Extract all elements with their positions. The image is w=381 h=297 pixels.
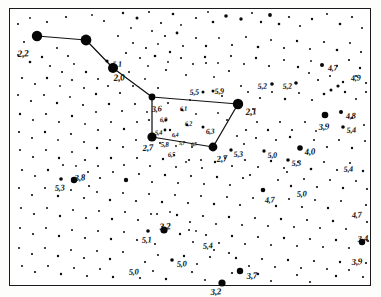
star-dot (95, 93, 97, 95)
star-dot (136, 239, 138, 241)
star-dot (169, 51, 171, 53)
star-dot (338, 139, 340, 141)
magnitude-label: 6,5 (168, 152, 176, 159)
star-dot (60, 273, 62, 275)
magnitude-label: 5,1 (141, 235, 151, 244)
magnitude-label: 5,0 (128, 267, 138, 276)
magnitude-label: 5,8 (161, 141, 169, 149)
star-dot (45, 227, 47, 229)
labeled-star-dot (81, 35, 92, 46)
star-dot (248, 265, 250, 267)
star-dot (289, 136, 291, 138)
star-dot (57, 255, 59, 257)
star-dot (31, 194, 33, 196)
labeled-star-dot (32, 31, 42, 41)
star-dot (342, 187, 344, 189)
star-dot (365, 204, 367, 206)
star-dot (195, 230, 197, 232)
star-dot (275, 139, 277, 141)
star-dot (317, 79, 319, 81)
magnitude-label: 2,2 (17, 49, 29, 59)
star-dot (23, 41, 25, 43)
star-dot (151, 30, 153, 32)
star-dot (107, 85, 109, 87)
star-dot (18, 187, 20, 189)
magnitude-label: 6,5 (191, 142, 197, 148)
star-dot (58, 235, 60, 237)
star-dot (196, 263, 198, 265)
magnitude-label: 5,7 (179, 141, 185, 147)
star-dot (97, 230, 99, 232)
star-dot (275, 205, 277, 207)
star-dot (111, 218, 113, 220)
labeled-star-dot (146, 229, 150, 233)
star-dot (83, 257, 85, 259)
star-dot (17, 23, 19, 25)
star-dot (213, 203, 215, 205)
star-dot (123, 231, 125, 233)
star-dot (313, 139, 315, 141)
star-dot (145, 47, 147, 49)
star-dot (195, 17, 197, 19)
star-dot (304, 121, 306, 123)
star-dot (195, 37, 197, 39)
star-dot (65, 16, 67, 18)
star-dot (296, 40, 298, 42)
star-dot (88, 185, 90, 187)
labeled-star-dot (229, 148, 232, 151)
star-dot (309, 48, 311, 50)
magnitude-label: 5,3 (233, 150, 243, 159)
star-dot (69, 96, 71, 98)
star-dot (139, 277, 141, 279)
magnitude-label: 4,0 (304, 147, 315, 157)
star-dot (300, 267, 302, 269)
magnitude-label: 5,9 (214, 87, 224, 96)
star-dot (44, 247, 46, 249)
star-dot (255, 57, 257, 59)
star-dot (99, 268, 101, 270)
star-dot (270, 39, 272, 41)
magnitude-label: 5,4 (343, 165, 353, 174)
star-dot (283, 167, 285, 169)
star-dot (67, 55, 69, 57)
star-dot (18, 247, 20, 249)
star-dot (73, 63, 75, 65)
star-dot (103, 20, 105, 22)
star-dot (191, 271, 193, 273)
star-dot (61, 71, 63, 73)
star-dot (319, 227, 321, 229)
star-dot (212, 21, 215, 24)
star-dot (235, 257, 237, 259)
star-dot (85, 71, 87, 73)
star-dot (185, 74, 187, 76)
star-dot (249, 174, 251, 176)
constellation-line-segment (213, 104, 238, 147)
star-dot (58, 121, 60, 123)
star-dot (97, 78, 99, 80)
star-dot (33, 213, 35, 215)
star-dot (144, 78, 146, 80)
star-dot (95, 111, 97, 113)
star-dot (299, 25, 301, 27)
labeled-stars (32, 31, 365, 287)
magnitude-label: 5,4 (202, 241, 212, 250)
magnitude-label: 5,1 (112, 60, 122, 69)
magnitude-label: 5,0 (267, 151, 277, 160)
star-dot (147, 65, 149, 67)
star-dot (327, 207, 329, 209)
star-dot (110, 157, 112, 159)
star-dot (165, 69, 167, 71)
star-dot (303, 178, 305, 180)
star-dot (314, 199, 316, 201)
star-dot (261, 258, 263, 260)
star-dot (70, 189, 72, 191)
magnitude-label: 5,2 (257, 82, 267, 91)
star-dot (31, 137, 33, 139)
labeled-star-dot (320, 63, 324, 67)
star-dot (149, 165, 151, 167)
star-dot (21, 265, 23, 267)
star-dot (150, 213, 152, 215)
magnitude-label: 4,8 (345, 111, 355, 120)
magnitude-label: 4,7 (327, 63, 337, 72)
star-dot (257, 46, 260, 49)
